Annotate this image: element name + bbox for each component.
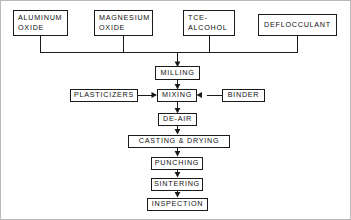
node-aluminum-oxide-line2: OXIDE <box>18 23 44 33</box>
node-sintering[interactable]: SINTERING <box>151 178 203 191</box>
node-casting-and-drying[interactable]: CASTING & DRYING <box>128 135 230 148</box>
node-tce-alcohol-line2: ALCOHOL <box>188 23 228 33</box>
node-mixing-label: MIXING <box>162 90 192 100</box>
node-deflocculant[interactable]: DEFLOCCULANT <box>258 14 337 36</box>
node-inspection[interactable]: INSPECTION <box>147 198 208 211</box>
arrowhead-de-air-to-casting <box>175 129 181 135</box>
node-sintering-label: SINTERING <box>154 179 200 189</box>
node-mixing[interactable]: MIXING <box>157 89 197 102</box>
node-de-air[interactable]: DE-AIR <box>158 113 197 126</box>
node-binder[interactable]: BINDER <box>222 89 265 102</box>
node-punching-label: PUNCHING <box>155 158 199 168</box>
node-inspection-label: INSPECTION <box>152 199 203 209</box>
node-tce-alcohol[interactable]: TCE- ALCOHOL <box>183 10 235 36</box>
node-punching[interactable]: PUNCHING <box>151 157 203 170</box>
flowchart-canvas: ALUMINUM OXIDE MAGNESIUM OXIDE TCE- ALCO… <box>0 0 351 220</box>
node-plasticizers[interactable]: PLASTICIZERS <box>70 89 138 102</box>
node-milling[interactable]: MILLING <box>155 66 200 80</box>
node-deflocculant-label: DEFLOCCULANT <box>264 20 331 30</box>
node-magnesium-oxide[interactable]: MAGNESIUM OXIDE <box>94 10 153 36</box>
arrowhead-punching-to-sintering <box>175 172 181 178</box>
node-de-air-label: DE-AIR <box>163 114 192 124</box>
node-aluminum-oxide-line1: ALUMINUM <box>18 13 62 23</box>
node-tce-alcohol-line1: TCE- <box>188 13 208 23</box>
arrowhead-binder-to-mixing <box>197 92 203 98</box>
node-magnesium-oxide-line2: OXIDE <box>99 23 125 33</box>
arrowhead-casting-to-punching <box>175 151 181 157</box>
node-casting-and-drying-label: CASTING & DRYING <box>139 136 220 146</box>
node-milling-label: MILLING <box>160 68 194 78</box>
node-binder-label: BINDER <box>228 90 260 100</box>
node-aluminum-oxide[interactable]: ALUMINUM OXIDE <box>13 10 68 36</box>
node-plasticizers-label: PLASTICIZERS <box>74 90 134 100</box>
arrowhead-sintering-to-inspection <box>175 192 181 198</box>
node-magnesium-oxide-line1: MAGNESIUM <box>99 13 150 23</box>
